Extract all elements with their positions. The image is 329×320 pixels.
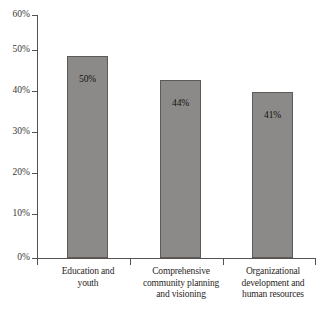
x-axis-line [37,258,316,259]
y-tick-label-60: 60% [0,10,30,20]
x-category-label-2: Organizational development and human res… [218,266,328,301]
bar-education-and-youth: 50% [67,56,108,259]
x-tick-mark-0 [37,259,38,265]
y-axis-line [37,15,38,259]
x-tick-mark-3 [315,259,316,265]
y-tick-label-10: 10% [0,209,30,219]
x-category-label-2-line-0: Organizational [218,266,328,278]
y-tick-label-30: 30% [0,127,30,137]
bar-organizational-development-and-human-resources: 41% [252,92,293,258]
x-category-label-2-line-2: human resources [218,289,328,301]
bar-comprehensive-community-planning-and-visioning: 44% [160,80,201,258]
bar-value-label-0: 50% [68,74,107,84]
y-tick-label-20: 20% [0,168,30,178]
x-category-label-2-line-1: development and [218,278,328,290]
y-tick-label-40: 40% [0,86,30,96]
bar-value-label-1: 44% [161,98,200,108]
x-tick-mark-1 [130,259,131,265]
bar-chart: 60% 50% 40% 30% 20% 10% 0% 50% 44% 41% E… [0,0,329,320]
x-tick-mark-2 [223,259,224,265]
y-tick-label-50: 50% [0,45,30,55]
y-tick-label-0: 0% [0,253,30,263]
bar-value-label-2: 41% [253,110,292,120]
